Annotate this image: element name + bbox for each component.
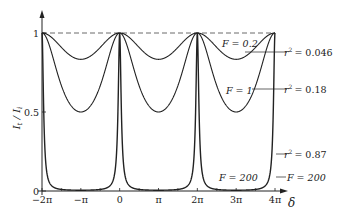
svg-text:1: 1 <box>33 28 39 39</box>
label-r2-0.046: r2= 0.046 <box>284 46 333 58</box>
label-f-1: F = 1 <box>225 85 253 96</box>
svg-text:0.5: 0.5 <box>24 107 39 118</box>
label-f-0.2: F = 0.2 <box>221 38 258 49</box>
y-axis-arrow-icon <box>40 10 45 18</box>
x-axis-arrow-icon <box>280 189 288 194</box>
svg-text:3π: 3π <box>230 194 242 205</box>
label-f-200-mid: F = 200 <box>218 172 258 183</box>
svg-text:2π: 2π <box>191 194 203 205</box>
svg-text:−π: −π <box>74 194 88 205</box>
airy-transmission-chart: −2π−π0π2π3π4π 00.51 δ It / Ii F = 0.2 r2… <box>0 0 339 216</box>
y-axis-label: It / Ii <box>11 107 24 131</box>
svg-text:π: π <box>155 194 161 205</box>
label-r2-0.87: r2= 0.87 <box>284 148 327 160</box>
label-r2-0.18: r2= 0.18 <box>284 83 327 95</box>
x-axis-label: δ <box>288 196 295 210</box>
label-f-200-right: F = 200 <box>286 172 326 183</box>
svg-text:0: 0 <box>117 194 123 205</box>
svg-text:0: 0 <box>33 186 39 197</box>
svg-text:4π: 4π <box>269 194 281 205</box>
